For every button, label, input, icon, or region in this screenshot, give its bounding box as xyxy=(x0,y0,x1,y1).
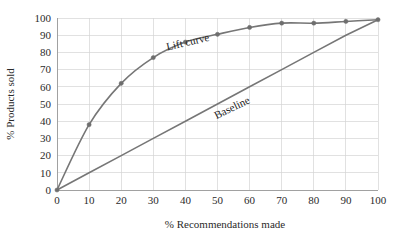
data-point xyxy=(280,21,284,25)
y-tick-label: 50 xyxy=(40,98,52,110)
data-point xyxy=(248,25,252,29)
x-tick-label: 30 xyxy=(148,194,160,206)
x-tick-label: 20 xyxy=(116,194,128,206)
data-point xyxy=(344,19,348,23)
data-point xyxy=(55,188,59,192)
y-tick-label: 40 xyxy=(40,115,52,127)
x-tick-label: 60 xyxy=(244,194,256,206)
y-tick-label: 0 xyxy=(46,184,52,196)
y-tick-label: 20 xyxy=(40,149,52,161)
y-tick-label: 10 xyxy=(40,167,52,179)
y-tick-label: 30 xyxy=(40,132,52,144)
lift-curve-chart: 0102030405060708090100 01020304050607080… xyxy=(0,0,412,235)
x-tick-label: 50 xyxy=(212,194,224,206)
y-axis-tick-labels: 0102030405060708090100 xyxy=(35,12,52,196)
y-tick-label: 80 xyxy=(40,46,52,58)
series-annotations: Lift curveBaseline xyxy=(165,31,251,121)
y-tick-label: 90 xyxy=(40,29,52,41)
x-tick-label: 10 xyxy=(84,194,96,206)
x-tick-label: 80 xyxy=(308,194,320,206)
annotation-lift-curve: Lift curve xyxy=(165,31,210,53)
chart-canvas: 0102030405060708090100 01020304050607080… xyxy=(0,0,412,235)
data-point xyxy=(151,55,155,59)
x-axis-title: % Recommendations made xyxy=(165,218,285,230)
y-axis-title: % Products sold xyxy=(4,68,16,140)
data-point xyxy=(312,21,316,25)
x-tick-label: 100 xyxy=(370,194,387,206)
annotation-baseline: Baseline xyxy=(212,94,251,121)
data-point xyxy=(119,81,123,85)
y-tick-label: 100 xyxy=(35,12,52,24)
y-tick-label: 60 xyxy=(40,81,52,93)
x-tick-label: 0 xyxy=(54,194,60,206)
x-tick-label: 70 xyxy=(276,194,288,206)
data-point xyxy=(215,32,219,36)
x-tick-label: 40 xyxy=(180,194,192,206)
x-tick-label: 90 xyxy=(340,194,352,206)
x-axis-tick-labels: 0102030405060708090100 xyxy=(54,194,387,206)
y-tick-label: 70 xyxy=(40,63,52,75)
data-point xyxy=(87,123,91,127)
data-point xyxy=(376,18,380,22)
